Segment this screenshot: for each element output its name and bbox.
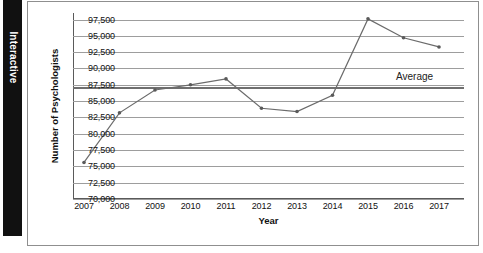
data-point-marker	[189, 83, 193, 87]
series-line	[84, 19, 439, 163]
data-point-marker	[260, 106, 264, 110]
x-axis-tick-label: 2017	[429, 201, 449, 211]
y-axis-ticks: 70,00072,50075,00077,50080,00082,50085,0…	[67, 13, 115, 199]
x-axis-tick-label: 2010	[181, 201, 201, 211]
gridline	[73, 199, 464, 200]
y-axis-tick-label: 80,000	[88, 129, 115, 139]
plot-area: Average 70,00072,50075,00077,50080,00082…	[73, 13, 464, 199]
y-axis-label-wrap: Number of Psychologists	[58, 13, 59, 199]
data-point-marker	[153, 88, 157, 92]
x-axis-tick-label: 2013	[287, 201, 307, 211]
x-axis-label: Year	[73, 215, 464, 226]
x-axis-tick-label: 2016	[394, 201, 414, 211]
data-point-marker	[402, 36, 406, 40]
side-tab-label: Interactive	[7, 31, 18, 83]
data-point-marker	[118, 111, 122, 115]
y-axis-tick-label: 72,500	[88, 178, 115, 188]
y-axis-tick-label: 97,500	[88, 15, 115, 25]
interactive-side-tab[interactable]: Interactive	[3, 0, 22, 236]
average-annotation-label: Average	[396, 71, 433, 82]
y-axis-label: Number of Psychologists	[49, 49, 60, 164]
data-point-marker	[366, 17, 370, 21]
x-axis-tick-label: 2015	[358, 201, 378, 211]
x-axis-tick-label: 2007	[74, 201, 94, 211]
y-axis-tick-label: 77,500	[88, 145, 115, 155]
data-point-marker	[295, 110, 299, 114]
data-point-marker	[224, 77, 228, 81]
chart-figure: Number of Psychologists Average 70,00072…	[27, 1, 479, 246]
data-point-marker	[437, 45, 441, 49]
data-point-marker	[331, 93, 335, 97]
x-axis-tick-label: 2008	[110, 201, 130, 211]
x-axis-tick-label: 2014	[323, 201, 343, 211]
x-axis-ticks: 2007200820092010201120122013201420152016…	[73, 201, 464, 215]
x-axis-tick-label: 2012	[252, 201, 272, 211]
y-axis-tick-label: 90,000	[88, 63, 115, 73]
line-series	[73, 13, 464, 199]
y-axis-tick-label: 75,000	[88, 161, 115, 171]
x-axis-tick-label: 2011	[217, 201, 236, 211]
screenshot-root: Interactive Number of Psychologists Aver…	[0, 0, 483, 253]
y-axis-tick-label: 92,500	[88, 47, 115, 57]
y-axis-tick-label: 82,500	[88, 112, 115, 122]
x-axis-tick-label: 2009	[145, 201, 165, 211]
y-axis-tick-label: 85,000	[88, 96, 115, 106]
y-axis-tick-label: 87,500	[88, 80, 115, 90]
y-axis-tick-label: 95,000	[88, 31, 115, 41]
